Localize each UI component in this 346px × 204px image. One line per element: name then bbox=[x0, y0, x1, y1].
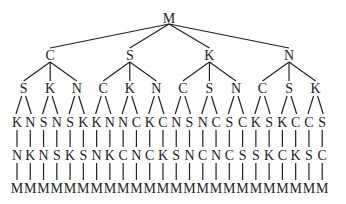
level3-node: C bbox=[238, 115, 247, 130]
level3-node: K bbox=[145, 115, 155, 130]
level4-node: C bbox=[318, 148, 327, 163]
tree-edge bbox=[262, 62, 289, 81]
leaf-node: M bbox=[303, 181, 316, 196]
permutation-tree-diagram: MCSKNSKNCKNCSNCSKKNSNSKKNNCKCNSNCSCKSKCC… bbox=[0, 0, 346, 204]
tree-edge bbox=[185, 96, 191, 114]
root-node: M bbox=[163, 11, 176, 26]
tree-edge bbox=[228, 96, 234, 114]
level3-node: K bbox=[251, 115, 261, 130]
leaf-node: M bbox=[64, 181, 77, 196]
level3-node: N bbox=[118, 115, 128, 130]
level3-node: N bbox=[198, 115, 208, 130]
tree-edge bbox=[202, 96, 208, 114]
level3-node: S bbox=[225, 115, 233, 130]
level4-node: N bbox=[131, 148, 141, 163]
level2-node: N bbox=[151, 81, 161, 96]
level3-node: K bbox=[277, 115, 287, 130]
tree-edge bbox=[50, 24, 169, 48]
tree-edge bbox=[79, 96, 85, 114]
leaf-node: M bbox=[250, 181, 263, 196]
tree-edge bbox=[149, 96, 155, 114]
tree-edge bbox=[50, 62, 77, 81]
level3-node: N bbox=[52, 115, 62, 130]
leaf-node: M bbox=[183, 181, 196, 196]
level4-node: K bbox=[65, 148, 75, 163]
level3-node: N bbox=[105, 115, 115, 130]
level3-node: N bbox=[25, 115, 35, 130]
level4-node: C bbox=[198, 148, 207, 163]
tree-edge bbox=[264, 96, 270, 114]
tree-edge bbox=[105, 96, 111, 114]
tree-edge bbox=[291, 96, 297, 114]
level1-node: C bbox=[46, 48, 55, 63]
tree-edge bbox=[43, 96, 49, 114]
leaf-node: M bbox=[51, 181, 64, 196]
level3-node: C bbox=[211, 115, 220, 130]
level3-node: S bbox=[265, 115, 273, 130]
level3-node: K bbox=[92, 115, 102, 130]
level4-node: K bbox=[105, 148, 115, 163]
level2-node: C bbox=[178, 81, 187, 96]
level4-node: K bbox=[158, 148, 168, 163]
tree-edge bbox=[130, 62, 157, 81]
tree-edge bbox=[281, 96, 287, 114]
level4-node: S bbox=[252, 148, 260, 163]
tree-edge bbox=[175, 96, 181, 114]
tree-edge bbox=[69, 96, 75, 114]
level2-node: S bbox=[285, 81, 293, 96]
level3-node: S bbox=[186, 115, 194, 130]
leaf-node: M bbox=[117, 181, 130, 196]
level3-node: S bbox=[318, 115, 326, 130]
tree-edge bbox=[16, 96, 22, 114]
tree-edge bbox=[158, 96, 164, 114]
level3-node: K bbox=[78, 115, 88, 130]
level4-node: N bbox=[92, 148, 102, 163]
tree-edge bbox=[169, 24, 289, 48]
leaf-node: M bbox=[90, 181, 103, 196]
level4-node: K bbox=[264, 148, 274, 163]
level3-node: C bbox=[158, 115, 167, 130]
tree-edge bbox=[24, 62, 51, 81]
tree-edge bbox=[289, 62, 316, 81]
level3-node: N bbox=[171, 115, 181, 130]
level4-node: K bbox=[291, 148, 301, 163]
level2-node: S bbox=[206, 81, 214, 96]
leaf-node: M bbox=[289, 181, 302, 196]
level3-node: C bbox=[304, 115, 313, 130]
level4-node: N bbox=[38, 148, 48, 163]
level2-node: K bbox=[125, 81, 135, 96]
leaf-node: M bbox=[316, 181, 329, 196]
leaf-node: M bbox=[223, 181, 236, 196]
level2-node: K bbox=[45, 81, 55, 96]
level4-node: S bbox=[305, 148, 313, 163]
tree-edge bbox=[103, 62, 130, 81]
tree-edge bbox=[308, 96, 314, 114]
level4-node: S bbox=[79, 148, 87, 163]
tree-edge bbox=[318, 96, 324, 114]
leaf-node: M bbox=[236, 181, 249, 196]
tree-edge bbox=[132, 96, 138, 114]
level2-node: N bbox=[72, 81, 82, 96]
level1-node: S bbox=[126, 48, 134, 63]
level4-node: S bbox=[172, 148, 180, 163]
tree-edge bbox=[238, 96, 244, 114]
level3-node: S bbox=[40, 115, 48, 130]
leaf-node: M bbox=[24, 181, 37, 196]
level2-node: K bbox=[311, 81, 321, 96]
level3-node: K bbox=[12, 115, 22, 130]
level4-node: C bbox=[118, 148, 127, 163]
level4-node: N bbox=[12, 148, 22, 163]
leaf-node: M bbox=[37, 181, 50, 196]
leaf-node: M bbox=[143, 181, 156, 196]
level4-node: S bbox=[53, 148, 61, 163]
tree-edge bbox=[26, 96, 32, 114]
leaf-node: M bbox=[170, 181, 183, 196]
tree-edge bbox=[96, 96, 102, 114]
leaf-node: M bbox=[11, 181, 24, 196]
level4-node: C bbox=[278, 148, 287, 163]
leaf-node: M bbox=[130, 181, 143, 196]
level2-node: N bbox=[231, 81, 241, 96]
leaf-node: M bbox=[104, 181, 117, 196]
level4-node: S bbox=[239, 148, 247, 163]
tree-edge bbox=[52, 96, 58, 114]
